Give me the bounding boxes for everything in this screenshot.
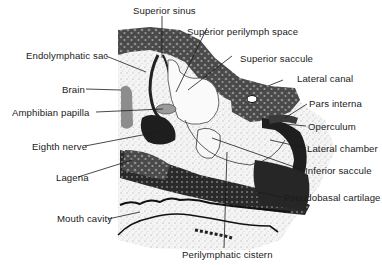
label-pseudobasal-cartilage: Pseudobasal cartilage (284, 192, 381, 203)
label-endolymphatic-sac: Endolymphatic sac (26, 50, 108, 61)
label-lagena: Lagena (56, 172, 89, 183)
label-superior-sinus: Superior sinus (133, 5, 196, 16)
label-eighth-nerve: Eighth nerve (32, 141, 87, 152)
brain-shape (121, 86, 133, 129)
label-perilymphatic-cistern: Perilymphatic cistern (182, 249, 273, 260)
label-superior-perilymph-space: Superior perilymph space (187, 26, 298, 37)
label-brain: Brain (62, 84, 85, 95)
diagram-artwork (0, 0, 382, 265)
label-pars-interna: Pars interna (309, 98, 362, 109)
label-operculum: Operculum (308, 121, 356, 132)
label-mouth-cavity: Mouth cavity (57, 213, 112, 224)
label-lateral-canal: Lateral canal (297, 73, 353, 84)
label-superior-saccule: Superior saccule (240, 53, 313, 64)
label-amphibian-papilla: Amphibian papilla (12, 107, 89, 118)
label-lateral-chamber: Lateral chamber (307, 143, 378, 154)
ear-cross-section-diagram: Superior sinus Superior perilymph space … (0, 0, 382, 265)
label-inferior-saccule: Inferior saccule (305, 165, 372, 176)
